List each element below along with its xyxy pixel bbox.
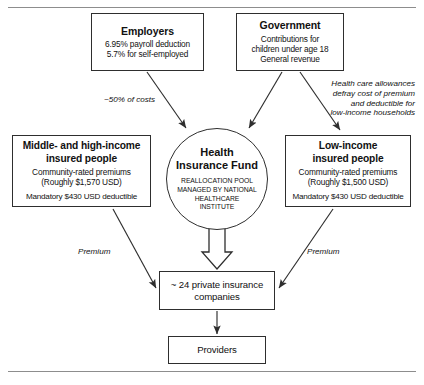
node-employers-line2: 5.7% for self-employed — [107, 49, 189, 59]
edge-label-premium-right: Premium — [307, 247, 339, 257]
node-private-insurance-companies: ~ 24 private insurance companies — [159, 271, 275, 310]
node-fund-title: Health Insurance Fund — [176, 146, 258, 172]
node-fund-title-line1: Health — [200, 146, 234, 158]
figure-container: Employers 6.95% payroll deduction 5.7% f… — [0, 0, 424, 385]
node-middle-high-title-line1: Middle- and high-income — [23, 140, 141, 151]
node-government-line1: Contributions for — [261, 34, 319, 44]
node-low-income-line3: Mandatory $430 USD deductible — [292, 192, 403, 202]
node-employers: Employers 6.95% payroll deduction 5.7% f… — [91, 13, 204, 71]
node-government-title: Government — [260, 19, 321, 32]
node-low-income-line2: (Roughly $1,500 USD) — [308, 177, 388, 187]
node-low-income-insured-people: Low-income insured people Community-rate… — [285, 135, 411, 207]
node-health-insurance-fund: Health Insurance Fund REALLOCATION POOL … — [166, 128, 268, 230]
node-fund-caps-line4: INSTITUTE — [200, 203, 235, 210]
node-fund-caption: REALLOCATION POOL MANAGED BY NATIONAL HE… — [177, 177, 257, 211]
edge-label-employers-share: ~50% of costs — [104, 95, 155, 105]
node-employers-detail: 6.95% payroll deduction 5.7% for self-em… — [105, 39, 190, 59]
node-fund-title-line2: Insurance Fund — [176, 159, 258, 171]
node-insurers-line2: companies — [194, 291, 240, 302]
node-insurers-label: ~ 24 private insurance companies — [171, 279, 263, 303]
node-fund-caps-line1: REALLOCATION POOL — [181, 177, 253, 184]
node-government-detail: Contributions for children under age 18 … — [251, 34, 328, 65]
node-insurers-line1: ~ 24 private insurance — [171, 279, 263, 290]
node-fund-caps-line3: HEALTHCARE — [195, 195, 240, 202]
edge-label-premium-left: Premium — [78, 247, 110, 257]
node-middle-high-line1: Community-rated premiums — [32, 167, 131, 177]
node-government: Government Contributions for children un… — [236, 13, 344, 71]
node-fund-caps-line2: MANAGED BY NATIONAL — [177, 186, 257, 193]
node-low-income-premium: Community-rated premiums (Roughly $1,500… — [299, 167, 398, 187]
arrow-middle-high-to-insurers — [113, 209, 156, 288]
edge-label-health-care-allowances: Health care allowances defray cost of pr… — [299, 79, 415, 118]
node-middle-and-high-income-insured-people: Middle- and high-income insured people C… — [12, 135, 151, 207]
node-low-income-line1: Community-rated premiums — [299, 167, 398, 177]
node-middle-high-line2: (Roughly $1,570 USD) — [41, 177, 121, 187]
arrow-government-to-fund — [249, 72, 282, 128]
node-providers: Providers — [168, 336, 266, 364]
node-government-line2: children under age 18 — [251, 44, 328, 54]
node-low-income-title-line1: Low-income — [319, 140, 377, 151]
node-middle-high-title-line2: insured people — [46, 153, 117, 164]
node-providers-label: Providers — [197, 344, 237, 357]
node-government-line3: General revenue — [260, 54, 320, 64]
node-middle-high-premium: Community-rated premiums (Roughly $1,570… — [32, 167, 131, 187]
node-middle-high-line3: Mandatory $430 USD deductible — [26, 192, 137, 202]
node-low-income-title: Low-income insured people — [312, 140, 383, 165]
node-low-income-title-line2: insured people — [312, 153, 383, 164]
node-employers-line1: 6.95% payroll deduction — [105, 39, 190, 49]
block-arrow-fund-to-insurers — [202, 228, 232, 269]
node-middle-high-title: Middle- and high-income insured people — [23, 140, 141, 165]
node-employers-title: Employers — [121, 25, 174, 38]
